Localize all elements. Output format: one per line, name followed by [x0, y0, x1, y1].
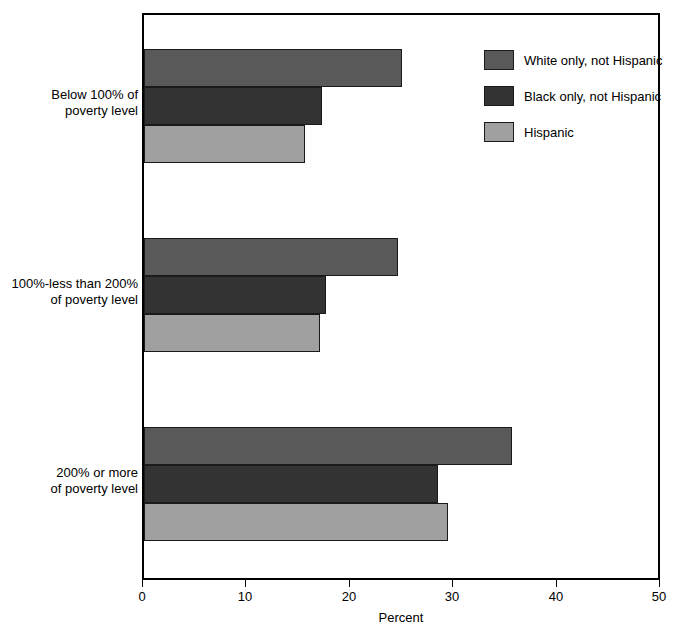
x-tick-50 [659, 580, 660, 587]
y-axis-label-0: Below 100% of poverty level [3, 87, 138, 119]
x-tick-10 [245, 580, 246, 587]
x-tick-label-20: 20 [342, 589, 356, 604]
y-axis-label-2: 200% or more of poverty level [3, 465, 138, 497]
bar-chart: Below 100% of poverty level 100%-less th… [0, 0, 678, 630]
x-tick-label-50: 50 [652, 589, 666, 604]
x-axis: 0 10 20 30 40 50 Percent [142, 580, 660, 630]
legend-label-white: White only, not Hispanic [524, 53, 663, 68]
bar-below100-white [144, 49, 402, 87]
bar-100to200-hispanic [144, 314, 320, 352]
x-tick-20 [349, 580, 350, 587]
x-tick-label-30: 30 [445, 589, 459, 604]
x-tick-30 [452, 580, 453, 587]
bar-200plus-black [144, 465, 438, 503]
bar-below100-black [144, 87, 322, 125]
x-tick-label-10: 10 [238, 589, 252, 604]
x-axis-title: Percent [142, 610, 660, 625]
y-axis-labels: Below 100% of poverty level 100%-less th… [0, 13, 138, 580]
bar-200plus-white [144, 427, 512, 465]
bar-100to200-black [144, 276, 326, 314]
bar-100to200-white [144, 238, 398, 276]
bar-below100-hispanic [144, 125, 305, 163]
legend-item-hispanic: Hispanic [484, 114, 664, 150]
x-tick-0 [142, 580, 143, 587]
legend-label-black: Black only, not Hispanic [524, 89, 661, 104]
legend-swatch-black-icon [484, 86, 514, 106]
x-tick-label-40: 40 [549, 589, 563, 604]
x-tick-40 [556, 580, 557, 587]
y-axis-label-1: 100%-less than 200% of poverty level [3, 276, 138, 308]
legend-item-black: Black only, not Hispanic [484, 78, 664, 114]
legend-swatch-hispanic-icon [484, 122, 514, 142]
x-tick-label-0: 0 [138, 589, 145, 604]
legend-label-hispanic: Hispanic [524, 125, 574, 140]
legend-swatch-white-icon [484, 50, 514, 70]
bar-200plus-hispanic [144, 503, 448, 541]
plot-area: White only, not Hispanic Black only, not… [142, 13, 660, 580]
legend: White only, not Hispanic Black only, not… [484, 42, 664, 150]
legend-item-white: White only, not Hispanic [484, 42, 664, 78]
